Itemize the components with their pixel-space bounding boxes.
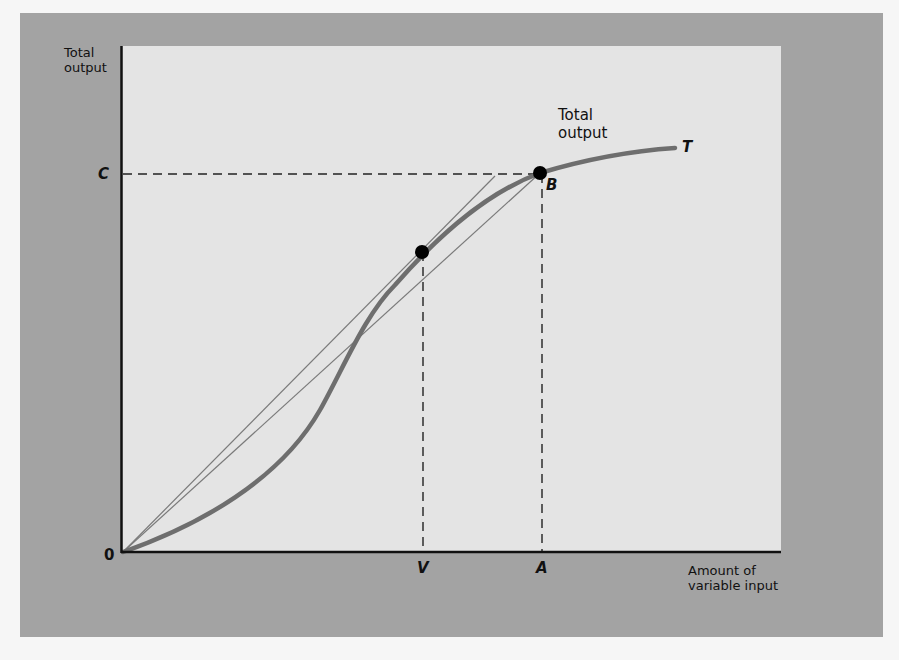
ray-tangent-at-v [123,176,495,552]
tick-label-a: A [536,560,548,576]
x-axis-title-line2: variable input [688,578,778,593]
curve-label-line1: Total [558,106,607,124]
tick-label-c: C [98,166,109,182]
x-axis-title-line1: Amount of [688,563,778,578]
point-b-label: B [546,177,557,193]
tangent-point [415,245,429,259]
origin-label: 0 [104,547,114,563]
tick-label-v: V [417,560,429,576]
curve-label-line2: output [558,124,607,142]
total-output-curve [123,148,675,552]
y-axis-title-line2: output [64,60,107,75]
curve-label: Total output [558,106,607,142]
chart-svg [0,0,899,660]
point-b [533,166,547,180]
x-axis-title: Amount of variable input [688,563,778,593]
ray-to-b [123,173,540,552]
y-axis-title-line1: Total [64,45,107,60]
y-axis-title: Total output [64,45,107,75]
curve-end-label: T [682,139,692,155]
